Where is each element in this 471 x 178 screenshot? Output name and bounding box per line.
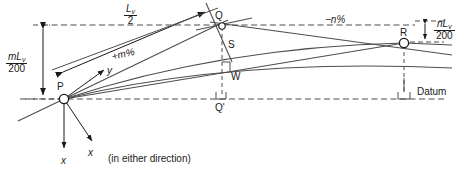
left-offset-dimension-label: mLv 200 (6, 52, 27, 74)
exit-gradient-line (210, 22, 452, 55)
vertical-curve-diagram: Lv 2 mLv 200 nLv 200 +m% −n% P Q S W Q' … (0, 0, 471, 178)
y-axis-label: y (107, 66, 112, 76)
long-chord-extension-right (404, 43, 452, 45)
x-axis-label-vertical: x (61, 156, 66, 166)
point-marker-R (399, 38, 408, 47)
right-offset-dimension-label: nLv 200 (434, 19, 455, 41)
point-marker-Q (219, 23, 225, 29)
half-chord-denominator: 2 (124, 15, 137, 27)
exit-gradient-label: −n% (325, 15, 345, 25)
datum-label: Datum (417, 87, 446, 97)
x-axis-label-angled: x (88, 148, 93, 158)
right-angle-mark-Q-prime (216, 92, 226, 99)
x-axis-arrow-angled (64, 99, 92, 141)
half-chord-numerator: Lv (124, 4, 137, 15)
point-label-P: P (57, 82, 64, 92)
point-label-S: S (228, 40, 235, 50)
half-chord-dimension-label: Lv 2 (124, 4, 137, 26)
right-offset-numerator: nLv (434, 19, 455, 30)
point-label-R: R (400, 28, 407, 38)
right-angle-mark-W (222, 62, 230, 71)
point-marker-P (59, 94, 68, 103)
right-offset-denominator: 200 (434, 30, 455, 42)
x-direction-note: (in either direction) (108, 154, 191, 164)
point-label-Q: Q (215, 11, 223, 21)
left-offset-denominator: 200 (6, 63, 27, 75)
entry-gradient-extension-left (18, 99, 64, 121)
left-offset-numerator: mLv (6, 52, 27, 63)
entry-gradient-line (64, 20, 228, 99)
point-label-W: W (231, 72, 240, 82)
right-angle-mark-datum (398, 78, 410, 99)
point-label-Q-prime: Q' (215, 103, 225, 113)
